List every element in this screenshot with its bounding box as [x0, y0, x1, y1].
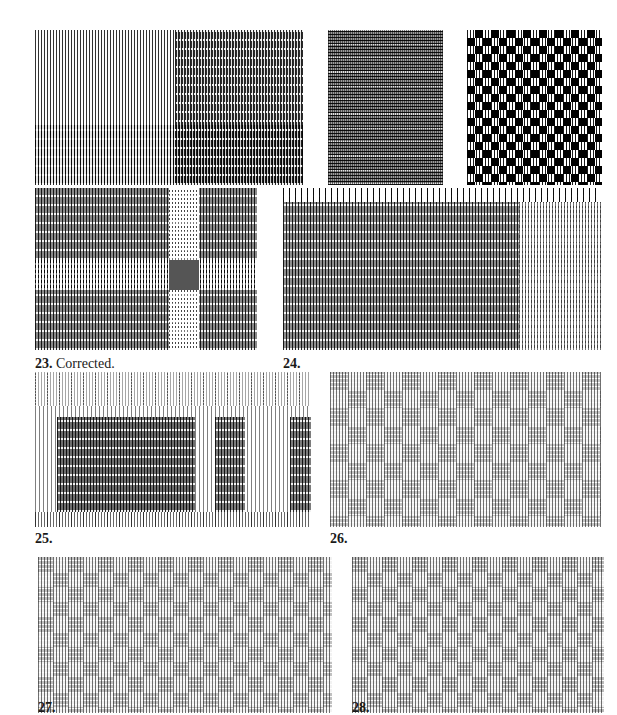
- figure-23-draft: [35, 188, 257, 350]
- figure-number: 28.: [352, 700, 370, 715]
- figure-22-ms-and-os-draft: [328, 30, 443, 185]
- figure-23-center-knot: [169, 260, 199, 290]
- figure-27-draft: [38, 557, 332, 713]
- caption-24: 24.: [283, 356, 301, 372]
- figure-number: 27.: [38, 700, 56, 715]
- figure-23-light-row: [35, 260, 257, 290]
- figure-number: 23.: [35, 356, 53, 371]
- figure-number: 26.: [330, 531, 348, 546]
- figure-25-center-block: [57, 417, 195, 512]
- figure-25-mid-block: [215, 417, 245, 512]
- figure-25-right-block: [290, 417, 311, 512]
- caption-27: 27.: [38, 700, 56, 715]
- figure-22-overshot-draft: [467, 30, 602, 185]
- caption-25: 25.: [35, 531, 53, 547]
- figure-21-draft: [35, 30, 303, 185]
- caption-28: 28.: [352, 700, 370, 715]
- figure-21-bottom-band: [35, 125, 303, 185]
- figure-25-top-border: [35, 372, 311, 406]
- figure-number: 24.: [283, 356, 301, 371]
- figure-24-right-panel: [519, 202, 601, 350]
- caption-26: 26.: [330, 531, 348, 547]
- figure-number: 25.: [35, 531, 53, 546]
- figure-25-bottom-border: [35, 512, 311, 527]
- figure-28-draft: [352, 557, 604, 713]
- caption-23: 23. Corrected.: [35, 356, 115, 372]
- figure-26-draft: [330, 372, 601, 527]
- figure-24-top-border: [283, 188, 601, 202]
- figure-24-draft: [283, 188, 601, 350]
- caption-text: Corrected.: [53, 356, 115, 371]
- figure-25-draft: [35, 372, 311, 527]
